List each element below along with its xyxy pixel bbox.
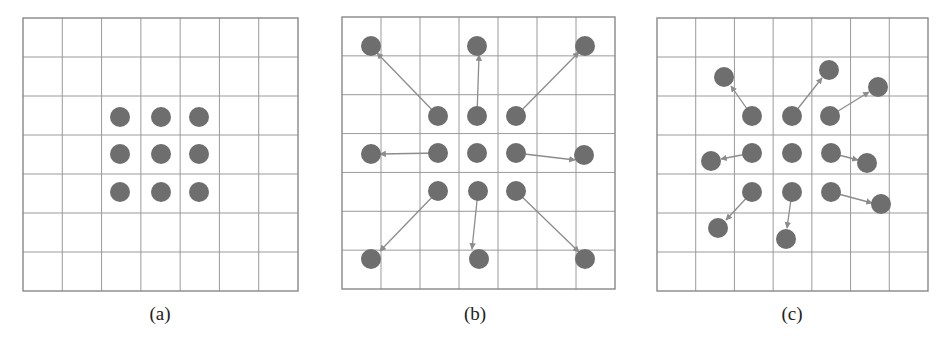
sample-point (714, 67, 734, 87)
sample-point (110, 182, 130, 202)
displacement-arrow (380, 191, 438, 251)
sample-point (110, 144, 130, 164)
sample-point (819, 60, 839, 80)
sample-point (821, 182, 841, 202)
sample-point (189, 144, 209, 164)
sample-point (868, 77, 888, 97)
panel-c-label: (c) (781, 303, 802, 325)
sample-point (151, 144, 171, 164)
sample-point (742, 182, 762, 202)
sample-point (469, 249, 489, 269)
displacement-arrow (516, 191, 579, 252)
panel-a (23, 18, 298, 291)
figure-canvas: (a) (b) (c) (0, 0, 948, 350)
sample-point (742, 143, 762, 163)
sample-point (782, 106, 802, 126)
sample-point (708, 218, 728, 238)
sample-point (151, 182, 171, 202)
sample-point (468, 181, 488, 201)
sample-point (428, 106, 448, 126)
sample-point (742, 106, 762, 126)
sample-point (506, 181, 526, 201)
sample-point (776, 229, 796, 249)
panel-b (342, 17, 615, 289)
panel-a-label: (a) (149, 303, 170, 325)
sample-point (467, 36, 487, 56)
sample-point (506, 106, 526, 126)
sample-point (428, 143, 448, 163)
sample-point (574, 145, 594, 165)
sample-point (361, 249, 381, 269)
sample-point (467, 143, 487, 163)
sample-point (821, 143, 841, 163)
sample-point (701, 151, 721, 171)
sample-point (189, 182, 209, 202)
sample-point (110, 107, 130, 127)
sample-point (575, 249, 595, 269)
sample-point (151, 107, 171, 127)
displacement-arrow (377, 53, 438, 116)
sample-point (428, 181, 448, 201)
sample-point (506, 143, 526, 163)
panel-b-label: (b) (464, 303, 486, 325)
sample-point (467, 106, 487, 126)
sample-point (361, 144, 381, 164)
sample-point (857, 153, 877, 173)
sample-point (782, 182, 802, 202)
sample-point (782, 143, 802, 163)
panel-c (657, 18, 928, 291)
displacement-arrow (516, 52, 579, 116)
sample-point (361, 36, 381, 56)
sample-point (189, 107, 209, 127)
sample-point (871, 194, 891, 214)
sample-point (575, 36, 595, 56)
sample-point (820, 106, 840, 126)
